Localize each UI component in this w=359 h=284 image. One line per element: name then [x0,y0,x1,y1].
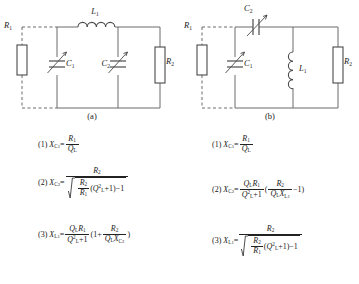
resistor-r2-symbol-b [333,47,343,83]
formula-block: (1) XC1= R1 QL (2) XC2= R2 [0,125,359,284]
frac-inner-b3: R2 R1 [251,237,263,256]
frac-r2-qlxl1-b2: R2 QLXL1 [268,180,291,199]
frac-inner-a2: R2 R1 [78,179,90,198]
label-c1-b: C1 [244,58,264,69]
circuit-panel-b: R1 C1 C2 L1 R2 (b) [180,0,359,125]
label-c2-a: C2 [90,58,110,69]
formula-b-1: (1) XC1= R1 QL [212,135,254,154]
formula-b-3: (3) XL1= R2 R2 [212,225,303,257]
frac-r1-ql-b: R1 QL [240,135,253,154]
frac-r2-qlxc2-a3: R2 QLXC2 [103,225,127,244]
circuit-diagrams: R1 C1 C2 R2 L1 (a) [0,0,359,125]
frac-ql-r1-a3: QLR1 Q2L+1 [65,225,89,245]
label-c2-b: C2 [244,3,264,14]
label-r2-b: R2 [344,56,359,67]
figure-root: R1 C1 C2 R2 L1 (a) [0,0,359,284]
label-c1-a: C1 [66,58,86,69]
radical-sign-a2 [68,177,75,198]
formula-b-2: (2) XC2= QLR1 Q2L+1 ( R2 QLXL1 −1) [212,180,304,200]
resistor-r2-symbol [155,47,165,83]
inductor-l1-symbol [78,22,115,27]
frac-outer-a2: R2 R2 R1 [66,167,129,199]
caption-a: (a) [80,111,104,121]
radical-a2: R2 R1 (Q2L+1)−1 [68,177,127,198]
inductor-l1-symbol-b [288,52,293,89]
circuit-panel-a: R1 C1 C2 R2 L1 (a) [0,0,180,125]
label-l1-a: L1 [85,6,105,17]
frac-r1-ql-a: R1 QL [66,135,79,154]
formula-a-2: (2) XC2= R2 R2 [38,167,129,199]
resistor-r1-symbol [17,45,27,75]
radical-b3: R2 R1 (Q2L+1)−1 [241,235,300,256]
frac-outer-b3: R2 R2 R1 [239,225,302,257]
formula-a-3: (3) XL1= QLR1 Q2L+1 (1+ R2 QLXC2 ) [38,225,130,245]
label-l1-b: L1 [299,63,319,74]
capacitor-c2-symbol-b [247,15,267,36]
label-r1-a: R1 [0,20,16,31]
circuit-b-svg [180,0,359,125]
resistor-r1-symbol-b [197,45,207,75]
frac-ql-r1-b2: QLR1 Q2L+1 [240,180,264,200]
radical-sign-b3 [241,235,248,256]
label-r1-b: R1 [180,20,196,31]
formula-a-1: (1) XC1= R1 QL [38,135,80,154]
caption-b: (b) [258,111,282,121]
